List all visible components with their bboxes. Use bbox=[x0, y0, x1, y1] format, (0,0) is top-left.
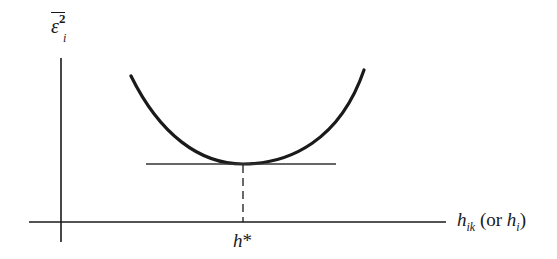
epsilon-symbol: ε bbox=[51, 15, 59, 37]
x-axis-main-subscript: ik bbox=[467, 220, 476, 234]
error-curve bbox=[131, 70, 364, 164]
y-axis-label: ε2i bbox=[51, 12, 65, 36]
x-axis-alt-suffix: ) bbox=[520, 209, 526, 230]
minimum-star: * bbox=[243, 230, 253, 251]
minimum-label: h* bbox=[233, 230, 252, 252]
x-axis-alt-prefix: (or bbox=[480, 209, 507, 230]
minimum-symbol: h bbox=[233, 230, 243, 251]
y-axis-subscript: i bbox=[63, 32, 66, 44]
x-axis-label: hik (or hi) bbox=[457, 209, 526, 235]
y-axis-symbol: ε2i bbox=[51, 12, 65, 36]
y-axis-superscript: 2 bbox=[59, 11, 66, 26]
x-axis-main-symbol: h bbox=[457, 209, 467, 230]
x-axis-alt-symbol: h bbox=[507, 209, 517, 230]
